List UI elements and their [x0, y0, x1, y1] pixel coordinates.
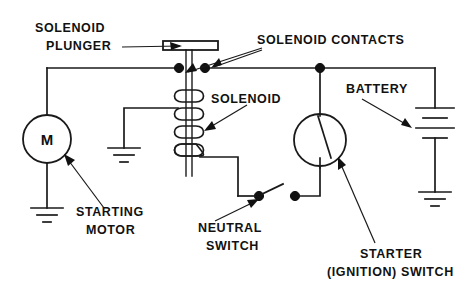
label-starter-switch-line1: STARTER — [360, 247, 422, 261]
solenoid-ground-lead — [124, 108, 178, 148]
label-battery: BATTERY — [346, 82, 408, 96]
solenoid-contact-left — [174, 63, 183, 72]
label-starting-motor-line2: MOTOR — [86, 223, 135, 237]
starting-motor: M — [23, 68, 71, 208]
leader-solenoid-contacts — [185, 48, 262, 73]
leader-starting-motor — [64, 154, 104, 208]
label-starting-motor-line1: STARTING — [76, 205, 144, 219]
battery — [416, 68, 454, 192]
label-neutral-switch-line2: SWITCH — [206, 239, 259, 253]
leader-solenoid-plunger — [122, 42, 182, 50]
label-solenoid-contacts: SOLENOID CONTACTS — [257, 33, 404, 47]
label-solenoid-plunger-line2: PLUNGER — [46, 39, 111, 53]
leader-solenoid — [204, 105, 247, 131]
circuit-svg: M — [0, 0, 475, 297]
motor-symbol-label: M — [41, 131, 54, 148]
label-neutral-switch-line1: NEUTRAL — [198, 221, 262, 235]
neutral-switch[interactable] — [238, 164, 320, 201]
leader-battery — [362, 99, 412, 128]
leader-starter-switch — [338, 157, 375, 243]
ground-battery — [419, 192, 451, 206]
label-solenoid-plunger-line1: SOLENOID — [35, 21, 105, 35]
ground-motor — [31, 208, 63, 222]
solenoid-coil — [175, 90, 204, 156]
solenoid-neutral-lead — [200, 157, 238, 196]
circuit-diagram: M — [0, 0, 475, 297]
starter-ignition-switch[interactable] — [294, 63, 346, 168]
ground-solenoid — [108, 148, 140, 162]
starter-switch-bus-node — [315, 63, 324, 72]
leader-neutral-switch — [215, 199, 259, 221]
label-starter-switch-line2: (IGNITION) SWITCH — [327, 265, 454, 279]
label-solenoid: SOLENOID — [211, 92, 281, 106]
